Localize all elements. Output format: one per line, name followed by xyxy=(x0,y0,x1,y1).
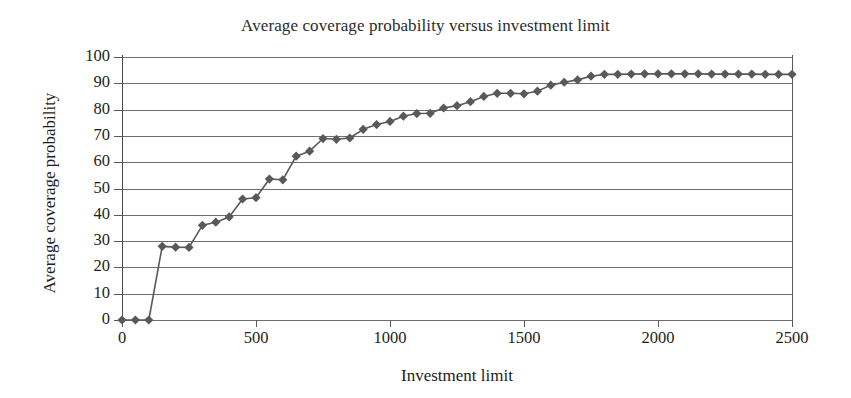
x-tick-label: 2500 xyxy=(752,330,832,347)
x-tick-label: 0 xyxy=(82,330,162,347)
y-tick-label: 80 xyxy=(38,101,110,118)
gridline-horizontal xyxy=(122,320,792,321)
y-tick-mark xyxy=(114,320,122,321)
x-tick-mark xyxy=(792,320,793,327)
y-tick-mark xyxy=(114,110,122,111)
y-tick-label: 90 xyxy=(38,74,110,91)
gridline-horizontal xyxy=(122,189,792,190)
gridline-horizontal xyxy=(122,57,792,58)
y-tick-label: 100 xyxy=(38,48,110,65)
plot-area xyxy=(122,57,792,320)
y-tick-label: 70 xyxy=(38,127,110,144)
y-tick-mark xyxy=(114,189,122,190)
x-tick-label: 2000 xyxy=(618,330,698,347)
x-tick-mark xyxy=(524,320,525,327)
x-axis-title: Investment limit xyxy=(122,366,792,386)
gridline-horizontal xyxy=(122,241,792,242)
x-tick-label: 1000 xyxy=(350,330,430,347)
y-tick-label: 60 xyxy=(38,153,110,170)
y-tick-mark xyxy=(114,294,122,295)
gridline-horizontal xyxy=(122,83,792,84)
y-tick-mark xyxy=(114,57,122,58)
y-axis-line xyxy=(122,55,123,322)
x-tick-mark xyxy=(658,320,659,327)
y-tick-label: 40 xyxy=(38,206,110,223)
y-tick-mark xyxy=(114,162,122,163)
y-tick-label: 20 xyxy=(38,258,110,275)
plot-right-border xyxy=(792,55,793,322)
y-tick-label: 10 xyxy=(38,285,110,302)
x-tick-label: 1500 xyxy=(484,330,564,347)
gridline-horizontal xyxy=(122,162,792,163)
gridline-horizontal xyxy=(122,267,792,268)
gridline-horizontal xyxy=(122,294,792,295)
x-tick-mark xyxy=(122,320,123,327)
y-tick-label: 0 xyxy=(38,311,110,328)
chart-title: Average coverage probability versus inve… xyxy=(0,16,851,36)
y-tick-mark xyxy=(114,83,122,84)
y-tick-mark xyxy=(114,215,122,216)
x-tick-label: 500 xyxy=(216,330,296,347)
y-tick-label: 30 xyxy=(38,232,110,249)
y-tick-mark xyxy=(114,267,122,268)
gridline-horizontal xyxy=(122,215,792,216)
y-tick-mark xyxy=(114,136,122,137)
gridline-horizontal xyxy=(122,110,792,111)
chart-figure: Average coverage probability versus inve… xyxy=(0,0,851,398)
y-tick-mark xyxy=(114,241,122,242)
y-tick-label: 50 xyxy=(38,180,110,197)
x-tick-mark xyxy=(390,320,391,327)
gridline-horizontal xyxy=(122,136,792,137)
x-tick-mark xyxy=(256,320,257,327)
